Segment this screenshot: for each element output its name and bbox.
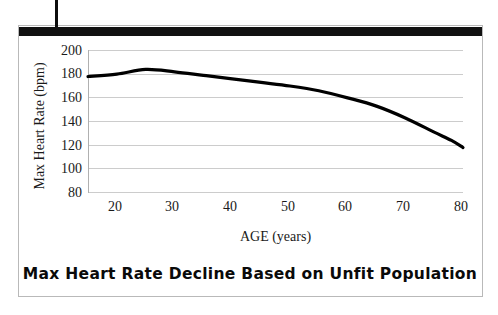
gridlines [88, 51, 463, 193]
series-line-max-heart-rate [88, 69, 463, 147]
chart-title: Max Heart Rate Decline Based on Unfit Po… [20, 265, 480, 283]
